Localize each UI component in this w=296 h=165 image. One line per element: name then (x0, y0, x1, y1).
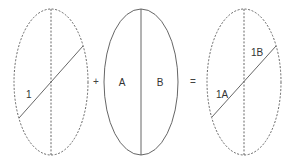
plus-operator: + (93, 76, 99, 87)
ellipse-3-group: 1A 1B (207, 9, 281, 155)
ellipse-2-label-a: A (119, 77, 126, 88)
ellipse-2-group: A B (104, 9, 178, 155)
diagram-canvas: 1 + A B = 1A 1B (0, 0, 296, 165)
ellipse-2-label-b: B (157, 77, 164, 88)
equals-operator: = (190, 76, 196, 87)
ellipse-1-group: 1 (14, 9, 88, 155)
ellipse-3-label-1b: 1B (251, 47, 264, 58)
ellipse-3-label-1a: 1A (216, 89, 229, 100)
ellipse-1-label-1: 1 (26, 89, 32, 100)
